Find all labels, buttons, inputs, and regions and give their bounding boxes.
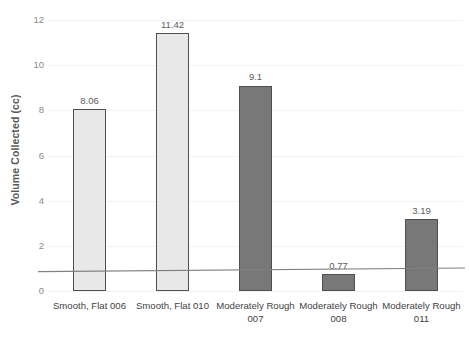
x-axis-category-label: Moderately Rough 007 [214,300,297,325]
y-axis-tick-label: 6 [22,151,44,161]
x-axis-category-label: Smooth, Flat 006 [48,300,131,313]
bar-value-label: 8.06 [60,96,120,106]
y-axis-tick-label: 10 [22,60,44,70]
y-axis-tick-label: 0 [22,286,44,296]
y-axis-tick-label: 4 [22,196,44,206]
bar-value-label: 0.77 [309,261,369,271]
y-axis-tick-labels: 024681012 [18,20,44,291]
gridline [48,291,463,292]
y-axis-tick-label: 8 [22,106,44,116]
x-axis-category-label: Smooth, Flat 010 [131,300,214,313]
y-axis-tick-label: 2 [22,241,44,251]
y-axis-tick-label: 12 [22,15,44,25]
bar-value-labels: 8.0611.429.10.773.19 [48,20,463,291]
x-axis-category-labels: Smooth, Flat 006Smooth, Flat 010Moderate… [48,300,463,340]
x-axis-category-label: Moderately Rough 008 [297,300,380,325]
bar-value-label: 9.1 [226,72,286,82]
bar-value-label: 11.42 [143,20,203,30]
bar-chart: Volume Collected (cc) 024681012 8.0611.4… [0,0,469,344]
x-axis-category-label: Moderately Rough 011 [380,300,463,325]
bar-value-label: 3.19 [392,206,452,216]
